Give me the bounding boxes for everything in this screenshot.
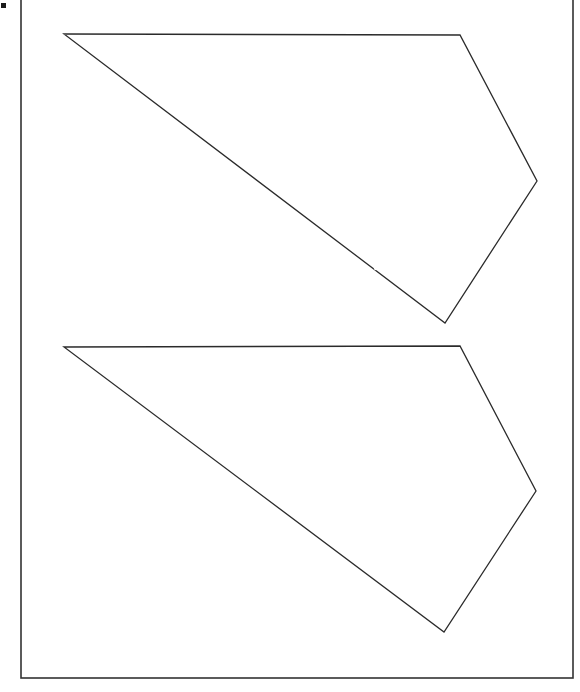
registration-mark (1, 3, 6, 8)
line-gap-marker (374, 266, 378, 270)
drawing-page: Pentagon outline (upper) Pentagon outlin… (0, 0, 580, 692)
technical-drawing-canvas (0, 0, 580, 692)
